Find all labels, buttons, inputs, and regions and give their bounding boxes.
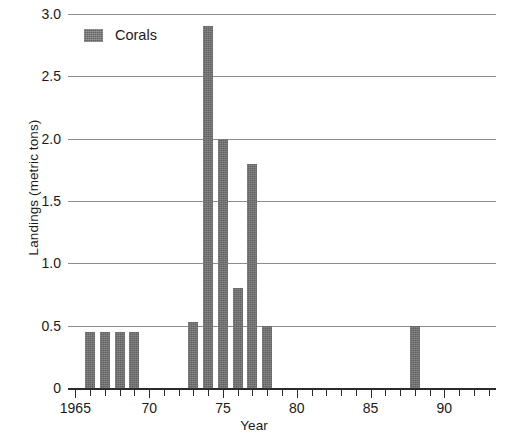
x-axis-tick bbox=[149, 389, 150, 398]
x-axis-tick-label: 75 bbox=[215, 400, 231, 416]
x-axis-tick-label: 85 bbox=[363, 400, 379, 416]
x-axis-tick bbox=[238, 389, 239, 396]
legend: Corals bbox=[84, 27, 157, 43]
x-axis-tick bbox=[371, 389, 372, 398]
x-axis-tick bbox=[179, 389, 180, 396]
x-axis-tick bbox=[474, 389, 475, 396]
x-axis-tick-label: 80 bbox=[289, 400, 305, 416]
y-axis-tick-label: 2.0 bbox=[42, 131, 61, 147]
x-axis-tick bbox=[164, 389, 165, 396]
x-axis-tick bbox=[120, 389, 121, 396]
y-axis-tick-label: 0 bbox=[53, 380, 61, 396]
x-axis-tick bbox=[282, 389, 283, 396]
x-axis-tick bbox=[105, 389, 106, 396]
gridline bbox=[68, 14, 496, 15]
y-axis-tick-label: 1.5 bbox=[42, 193, 61, 209]
y-axis-tick-label: 1.0 bbox=[42, 255, 61, 271]
x-axis-tick bbox=[297, 389, 298, 398]
x-axis-tick bbox=[400, 389, 401, 396]
x-axis-tick-label: 1965 bbox=[60, 400, 91, 416]
x-axis-tick bbox=[267, 389, 268, 396]
x-axis-tick bbox=[430, 389, 431, 396]
gridline bbox=[68, 139, 496, 140]
legend-swatch-corals bbox=[84, 29, 103, 42]
bar bbox=[233, 288, 243, 388]
y-axis-title: Landings (metric tons) bbox=[26, 63, 41, 313]
bar bbox=[203, 26, 213, 388]
x-axis-tick bbox=[134, 389, 135, 396]
bar bbox=[85, 332, 95, 388]
x-axis-tick bbox=[356, 389, 357, 396]
bar bbox=[262, 326, 272, 388]
plot-area: 00.51.01.52.02.53.0 19657075808590 bbox=[68, 14, 496, 389]
x-axis-tick bbox=[223, 389, 224, 398]
x-axis-tick-label: 90 bbox=[437, 400, 453, 416]
bar bbox=[129, 332, 139, 388]
gridline bbox=[68, 201, 496, 202]
y-axis-tick-label: 0.5 bbox=[42, 318, 61, 334]
x-axis-tick bbox=[90, 389, 91, 396]
x-axis-tick-label: 70 bbox=[141, 400, 157, 416]
x-axis-title: Year bbox=[0, 418, 508, 433]
bar bbox=[218, 139, 228, 388]
x-axis-tick bbox=[459, 389, 460, 396]
bar bbox=[100, 332, 110, 388]
x-axis-tick bbox=[489, 389, 490, 396]
x-axis-tick bbox=[444, 389, 445, 398]
gridline bbox=[68, 326, 496, 327]
x-axis-tick bbox=[312, 389, 313, 396]
y-axis-tick-label: 3.0 bbox=[42, 6, 61, 22]
gridline bbox=[68, 76, 496, 77]
legend-label-corals: Corals bbox=[115, 27, 157, 43]
bar bbox=[188, 322, 198, 388]
x-axis-tick bbox=[193, 389, 194, 396]
gridline bbox=[68, 263, 496, 264]
x-axis-tick bbox=[341, 389, 342, 396]
x-axis-tick bbox=[252, 389, 253, 396]
x-axis-tick bbox=[208, 389, 209, 396]
bar bbox=[410, 326, 420, 388]
x-axis-tick bbox=[385, 389, 386, 396]
x-axis-tick bbox=[415, 389, 416, 396]
x-axis-tick bbox=[326, 389, 327, 396]
bar bbox=[115, 332, 125, 388]
x-axis-tick bbox=[75, 389, 76, 398]
bar bbox=[247, 164, 257, 388]
coral-landings-bar-chart: Landings (metric tons) 00.51.01.52.02.53… bbox=[0, 0, 508, 443]
y-axis-tick-label: 2.5 bbox=[42, 68, 61, 84]
